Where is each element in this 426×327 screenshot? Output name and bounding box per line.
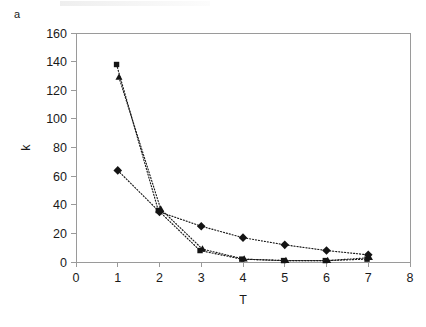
series-line-diamond (118, 170, 369, 254)
y-tick-label: 120 (46, 84, 67, 98)
x-tick-label: 0 (73, 271, 80, 285)
y-tick-label: 20 (53, 227, 67, 241)
axis-titles-group: Tk (19, 144, 247, 307)
data-point-diamond (280, 241, 289, 250)
y-tick-label: 160 (46, 27, 67, 41)
axes-group (76, 33, 410, 262)
y-tick-label: 60 (53, 170, 67, 184)
scan-artifact (60, 1, 210, 6)
series-line-triangle (119, 77, 370, 260)
y-axis-title: k (19, 144, 33, 151)
x-tick-label: 3 (198, 271, 205, 285)
x-tick-label: 5 (281, 271, 288, 285)
y-tick-label: 0 (60, 256, 67, 270)
series-line-square (117, 64, 367, 260)
x-tick-label: 4 (240, 271, 247, 285)
data-point-diamond (197, 222, 206, 231)
data-point-square (114, 62, 119, 67)
plot-frame (76, 33, 410, 262)
y-tick-label: 80 (53, 141, 67, 155)
y-tick-label: 140 (46, 55, 67, 69)
panel-label: a (14, 8, 20, 20)
data-point-diamond (322, 246, 331, 255)
y-tick-label: 100 (46, 112, 67, 126)
tick-labels-group: 020406080100120140160012345678 (46, 27, 413, 286)
data-point-diamond (239, 233, 248, 242)
chart-canvas: 020406080100120140160012345678 Tk (0, 0, 426, 327)
x-axis-title: T (239, 293, 247, 307)
x-tick-label: 8 (407, 271, 414, 285)
x-tick-label: 7 (365, 271, 372, 285)
data-point-triangle (115, 74, 122, 80)
x-tick-label: 2 (156, 271, 163, 285)
x-tick-label: 1 (114, 271, 121, 285)
y-tick-label: 40 (53, 198, 67, 212)
figure-panel-a: a 020406080100120140160012345678 Tk (0, 0, 426, 327)
ticks-group (71, 33, 410, 267)
series-group (113, 62, 373, 263)
x-tick-label: 6 (323, 271, 330, 285)
